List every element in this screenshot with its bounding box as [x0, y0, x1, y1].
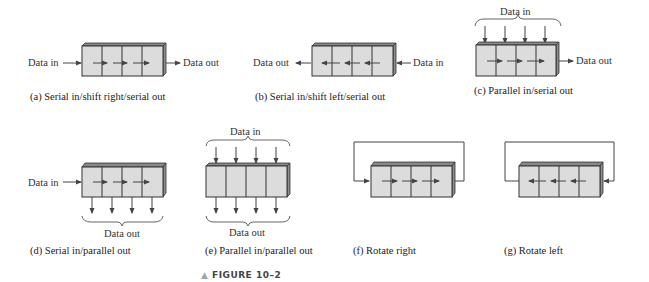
input-brace — [206, 136, 290, 146]
panel-g-rotate-left: (g) Rotate left — [504, 142, 614, 257]
caption-b: (b) Serial in/shift left/serial out — [255, 91, 385, 103]
panel-a-serial-in-shift-right: Data in Data out (a) Serial in/shift rig… — [28, 43, 219, 103]
register-block — [206, 163, 290, 197]
caption-a: (a) Serial in/shift right/serial out — [30, 91, 165, 103]
data-in-label: Data in — [28, 177, 59, 188]
data-out-label: Data out — [183, 57, 219, 68]
register-block — [82, 163, 166, 197]
panel-c-parallel-in-serial-out: Data in Data out (c) Parallel in/serial … — [474, 6, 612, 97]
register-block — [312, 43, 396, 76]
panel-b-serial-in-shift-left: Data out Data in (b) Serial in/shift lef… — [253, 43, 444, 103]
caption-d: (d) Serial in/parallel out — [30, 245, 131, 257]
panel-e-parallel-in-parallel-out: Data in Data out (e) Parallel in/paralle… — [205, 126, 313, 257]
data-out-label: Data out — [229, 227, 265, 238]
caption-c: (c) Parallel in/serial out — [474, 85, 573, 97]
output-brace — [206, 216, 290, 226]
register-block — [519, 162, 603, 197]
caption-f: (f) Rotate right — [353, 245, 416, 257]
data-in-label: Data in — [500, 6, 531, 17]
register-block — [476, 42, 559, 76]
panel-d-serial-in-parallel-out: Data in Data out (d) Serial in/parallel … — [28, 163, 166, 257]
data-out-label: Data out — [253, 57, 289, 68]
figure-label: ▲ FIGURE 10–2 — [201, 270, 281, 280]
panel-f-rotate-right: (f) Rotate right — [353, 142, 464, 257]
caption-e: (e) Parallel in/parallel out — [205, 245, 313, 257]
register-block — [82, 43, 166, 76]
data-in-label: Data in — [230, 126, 261, 137]
data-in-label: Data in — [413, 57, 444, 68]
caption-g: (g) Rotate left — [504, 245, 563, 257]
figure-number: FIGURE 10–2 — [212, 270, 281, 280]
register-block — [371, 162, 455, 197]
triangle-marker-icon: ▲ — [201, 270, 208, 280]
output-brace — [82, 216, 163, 226]
data-out-label: Data out — [104, 228, 140, 239]
data-out-label: Data out — [576, 55, 612, 66]
data-in-label: Data in — [28, 57, 59, 68]
